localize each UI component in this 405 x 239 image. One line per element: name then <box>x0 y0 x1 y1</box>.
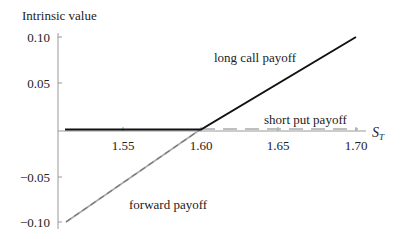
x-tick-label: 1.65 <box>267 138 290 153</box>
x-axis-label: ST <box>372 125 385 142</box>
y-axis-label: Intrinsic value <box>22 8 97 23</box>
forward-annotation: forward payoff <box>129 197 208 212</box>
x-tick-label: 1.55 <box>112 138 135 153</box>
y-tick-label: −0.10 <box>20 215 50 230</box>
x-tick-label: 1.60 <box>190 138 213 153</box>
payoff-chart: Intrinsic value 0.10 0.05 −0.05 −0.10 1.… <box>0 0 405 239</box>
y-tick-label: 0.05 <box>27 76 50 91</box>
long-call-annotation: long call payoff <box>214 50 297 65</box>
y-tick-label: 0.10 <box>27 30 50 45</box>
y-tick-label: −0.05 <box>20 170 50 185</box>
y-ticks: 0.10 0.05 −0.05 −0.10 <box>20 30 62 230</box>
short-put-annotation: short put payoff <box>264 112 347 127</box>
x-tick-label: 1.70 <box>345 138 368 153</box>
